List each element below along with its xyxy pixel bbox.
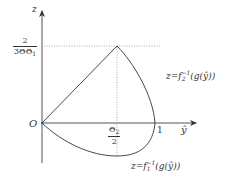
upper-curve-suffix: (g(ŷ)) (190, 71, 215, 81)
lower-curve-sub: 1 (147, 165, 151, 172)
upper-curve-sup: −1 (181, 69, 190, 76)
y-mid-tick-label: Θ2 2 (108, 126, 120, 146)
y-axis-label: ŷ (181, 125, 187, 135)
z-peak-tick-label: 2 3ΘΘ1 (13, 37, 37, 57)
lower-curve-sup: −1 (146, 159, 155, 166)
line-origin-to-peak (42, 46, 117, 123)
z-peak-numerator: 2 (21, 37, 28, 45)
z-axis-label: z (32, 5, 37, 14)
z-peak-denominator-sub: 1 (32, 50, 36, 57)
diagram-canvas (0, 0, 228, 182)
upper-curve-prefix: z=f (166, 71, 182, 81)
y-mid-denominator: 2 (111, 138, 118, 146)
curve-lower (42, 123, 155, 156)
upper-curve-sub: 2 (182, 75, 186, 82)
curve-upper (117, 46, 155, 123)
y-one-tick-label: 1 (157, 126, 163, 135)
z-peak-denominator: 3ΘΘ1 (13, 48, 37, 57)
lower-curve-label: z=f1−1(g(ŷ)) (131, 160, 180, 172)
diagram: z ŷ O 2 3ΘΘ1 Θ2 2 1 z=f2−1(g(ŷ)) z=f1−1(… (0, 0, 228, 182)
y-mid-numerator-sub: 2 (116, 128, 120, 135)
upper-curve-label: z=f2−1(g(ŷ)) (166, 70, 215, 82)
origin-point (41, 122, 43, 124)
origin-label: O (29, 119, 37, 129)
z-peak-denominator-main: 3ΘΘ (14, 47, 32, 56)
lower-curve-prefix: z=f (131, 161, 147, 171)
y-mid-numerator: Θ2 (108, 126, 120, 135)
lower-curve-suffix: (g(ŷ)) (155, 161, 180, 171)
